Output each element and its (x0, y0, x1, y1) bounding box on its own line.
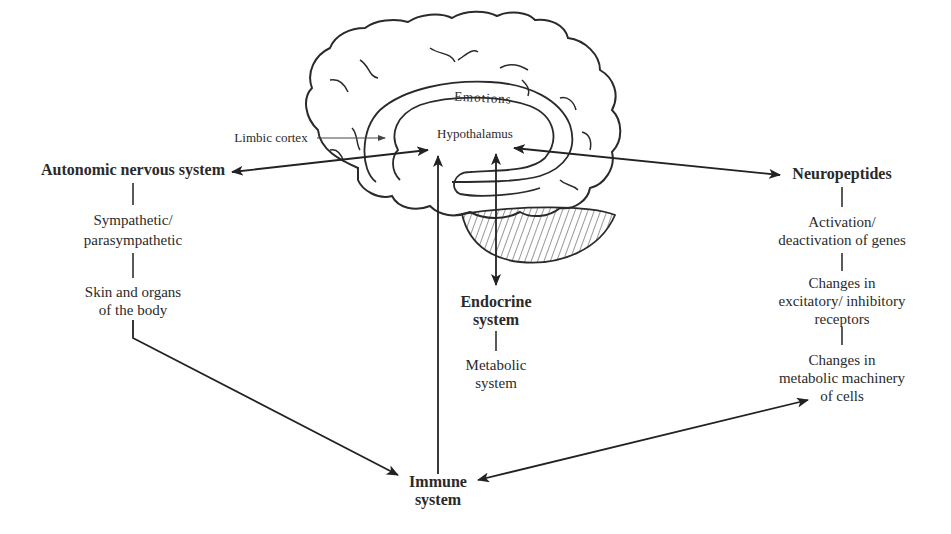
immune-node-line2: system (398, 490, 478, 510)
metabolic-system-label: system (446, 373, 546, 393)
skin-organs-label: Skin and organs (43, 282, 223, 302)
diagram-canvas (0, 0, 951, 534)
sympathetic-label: Sympathetic/ (43, 210, 223, 230)
deactivation-genes-label: deactivation of genes (752, 230, 932, 250)
autonomic-nervous-system-node: Autonomic nervous system (30, 160, 236, 180)
limbic-cortex-label: Limbic cortex (226, 128, 316, 148)
edge-skin-immune (133, 320, 398, 475)
edge-hypothalamus-autonomic (232, 150, 428, 172)
metabolic-machinery-label: metabolic machinery (752, 368, 932, 388)
changes-in-label-1: Changes in (752, 273, 932, 293)
changes-in-label-2: Changes in (752, 350, 932, 370)
activation-label: Activation/ (752, 212, 932, 232)
endocrine-node-line1: Endocrine (446, 292, 546, 312)
edge-immune-metabolic (478, 400, 808, 480)
metabolic-label: Metabolic (446, 355, 546, 375)
immune-node-line1: Immune (398, 472, 478, 492)
excitatory-inhibitory-label: excitatory/ inhibitory (752, 291, 932, 311)
parasympathetic-label: parasympathetic (43, 230, 223, 250)
endocrine-node-line2: system (446, 310, 546, 330)
of-the-body-label: of the body (43, 300, 223, 320)
neuropeptides-node: Neuropeptides (772, 164, 912, 184)
hypothalamus-label: Hypothalamus (420, 124, 530, 144)
edge-hypothalamus-neuropeptides (514, 148, 780, 175)
of-cells-label: of cells (752, 386, 932, 406)
receptors-label: receptors (752, 309, 932, 329)
